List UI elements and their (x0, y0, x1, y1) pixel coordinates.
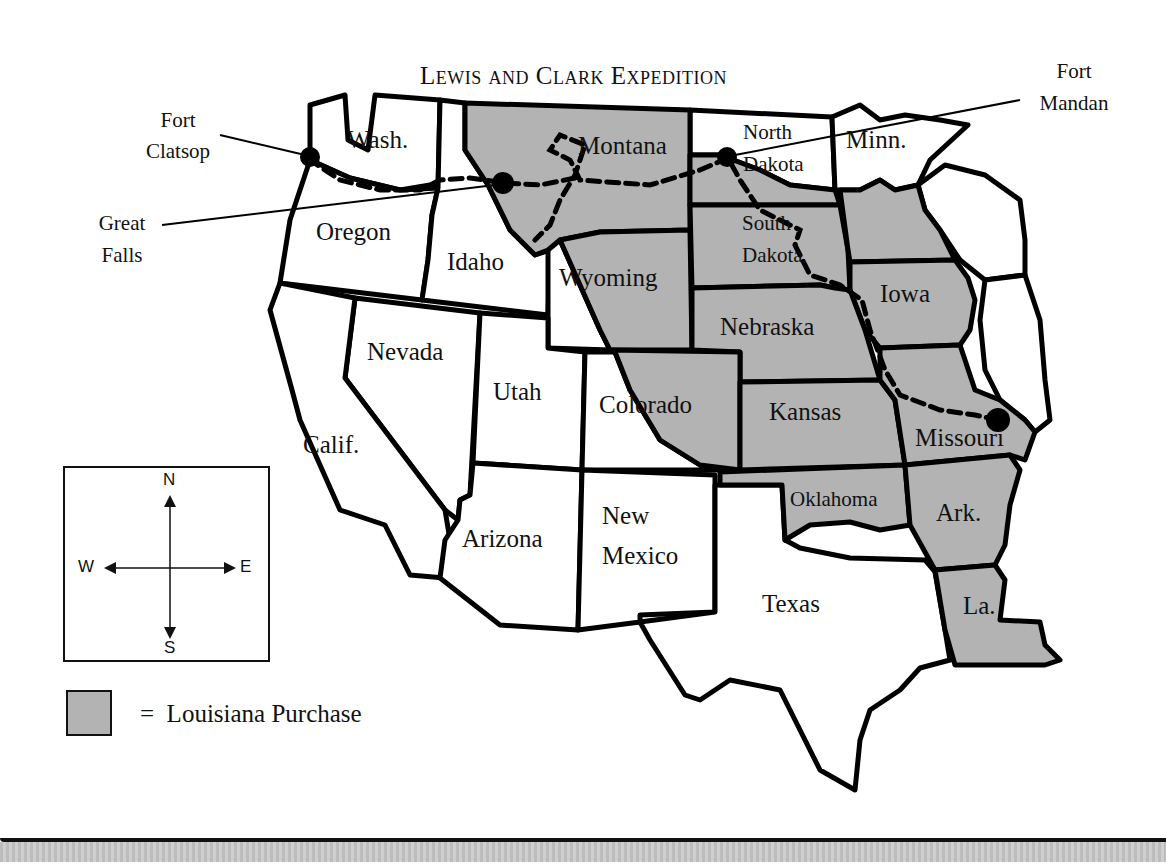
label-iowa: Iowa (880, 280, 930, 307)
legend-label: = Louisiana Purchase (140, 700, 362, 728)
label-missouri: Missouri (915, 424, 1004, 451)
label-calif: Calif. (303, 431, 359, 458)
label-texas: Texas (762, 590, 820, 617)
page-bottom-shadow (0, 842, 1166, 862)
compass-north: N (163, 470, 175, 490)
label-oregon: Oregon (316, 218, 391, 245)
fort-mandan-label-1: Fort (1056, 59, 1091, 83)
label-montana: Montana (578, 132, 667, 159)
label-minn: Minn. (846, 126, 906, 153)
label-wash: Wash. (347, 126, 408, 153)
great-falls-label-1: Great (99, 211, 146, 235)
state-kansas (740, 380, 905, 470)
label-colorado: Colorado (599, 391, 692, 418)
legend-equals: = (140, 700, 154, 727)
compass-arrows-icon (65, 468, 268, 660)
label-wyoming: Wyoming (559, 264, 658, 291)
fort-mandan-marker (717, 147, 737, 167)
great-falls-label-2: Falls (102, 243, 143, 267)
label-idaho: Idaho (447, 248, 504, 275)
label-nebraska: Nebraska (720, 313, 814, 340)
fort-mandan-label-2: Mandan (1040, 91, 1109, 115)
compass-south: S (164, 638, 175, 658)
label-la: La. (963, 592, 996, 619)
fort-clatsop-leader (220, 135, 305, 155)
label-south-dakota-1: South (742, 211, 792, 235)
label-utah: Utah (493, 378, 542, 405)
state-louisiana (935, 565, 1060, 665)
legend-swatch-louisiana-purchase (66, 690, 112, 736)
great-falls-marker (492, 172, 514, 194)
label-nevada: Nevada (367, 338, 443, 365)
label-new-mexico-2: Mexico (602, 542, 678, 569)
label-new-mexico-1: New (602, 502, 649, 529)
label-kansas: Kansas (769, 398, 841, 425)
label-north-dakota-1: North (743, 120, 792, 144)
label-arizona: Arizona (462, 525, 543, 552)
legend-label-text: Louisiana Purchase (167, 700, 362, 727)
fort-clatsop-label-2: Clatsop (146, 139, 210, 163)
compass-west: W (78, 557, 94, 577)
fort-clatsop-label-1: Fort (160, 108, 195, 132)
fort-clatsop-marker (300, 147, 320, 167)
us-map: Fort Clatsop Great Falls Fort Mandan Was… (0, 0, 1166, 868)
compass-rose: N S W E (63, 466, 270, 662)
compass-east: E (240, 557, 251, 577)
label-north-dakota-2: Dakota (743, 152, 804, 176)
label-oklahoma: Oklahoma (790, 487, 878, 511)
label-south-dakota-2: Dakota (742, 243, 803, 267)
label-ark: Ark. (936, 499, 981, 526)
